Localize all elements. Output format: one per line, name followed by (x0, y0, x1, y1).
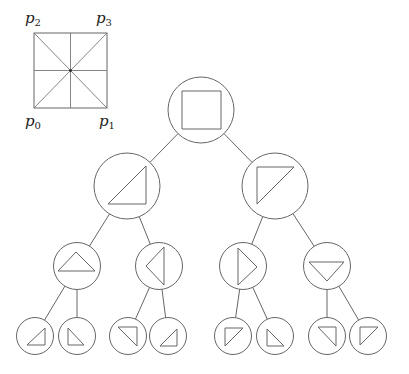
triangle-icon (318, 327, 336, 346)
node-circle (150, 318, 187, 355)
triangle-icon (267, 329, 284, 346)
tree-node-root (168, 77, 234, 143)
tree-edges (45, 134, 359, 320)
triangle-icon (58, 252, 95, 271)
subdivided-square-legend: p2p3p0p1 (25, 9, 115, 131)
triangle-icon (27, 328, 45, 345)
edge-RR-RR2 (339, 286, 359, 320)
node-circle (350, 318, 387, 355)
tree-node-LR1 (110, 318, 147, 355)
tree-node-RL (220, 243, 267, 290)
triangle-icon (108, 166, 146, 204)
edge-RL-RL1 (236, 289, 240, 317)
triangle-icon (225, 328, 243, 346)
corner-label-p1: p1 (99, 112, 115, 131)
edge-L-LR (139, 217, 150, 245)
tree-node-RL1 (215, 318, 252, 355)
node-circle (54, 243, 101, 290)
triangle-icon (309, 262, 344, 281)
tree-nodes (17, 77, 387, 355)
node-circle (94, 153, 160, 219)
node-circle (59, 318, 96, 355)
edge-LL-LL1 (45, 286, 65, 320)
triangle-icon (146, 247, 164, 285)
node-circle (136, 243, 183, 290)
edge-R-RL (252, 217, 263, 245)
tree-node-R (242, 153, 308, 219)
quadtree-diagram: p2p3p0p1 (0, 0, 409, 374)
corner-label-p3: p3 (96, 9, 112, 28)
tree-node-RR1 (309, 318, 346, 355)
edge-LR-LR1 (135, 287, 149, 319)
node-circle (220, 243, 267, 290)
edge-L-LL (89, 214, 109, 246)
node-circle (17, 318, 54, 355)
tree-node-LL2 (59, 318, 96, 355)
node-circle (168, 77, 234, 143)
triangle-icon (160, 329, 177, 346)
edge-LR-LR2 (162, 289, 166, 317)
tree-node-LL1 (17, 318, 54, 355)
tree-node-RR2 (350, 318, 387, 355)
tree-node-LR (136, 243, 183, 290)
node-circle (257, 318, 294, 355)
tree-node-LR2 (150, 318, 187, 355)
corner-label-p2: p2 (25, 9, 41, 28)
tree-node-RL2 (257, 318, 294, 355)
node-circle (110, 318, 147, 355)
triangle-icon (118, 327, 137, 346)
tree-node-L (94, 153, 160, 219)
edge-root-R (224, 134, 252, 163)
square-icon (182, 91, 221, 129)
triangle-icon (68, 328, 84, 345)
triangle-icon (360, 327, 378, 345)
edge-RL-RL2 (253, 287, 268, 319)
center-point (69, 69, 72, 72)
node-circle (304, 243, 351, 290)
triangle-icon (257, 167, 294, 204)
edge-root-L (150, 134, 178, 163)
edge-R-RR (293, 214, 314, 247)
tree-node-RR (304, 243, 351, 290)
node-circle (215, 318, 252, 355)
corner-label-p0: p0 (25, 112, 41, 131)
triangle-icon (238, 248, 257, 285)
tree-node-LL (54, 243, 101, 290)
